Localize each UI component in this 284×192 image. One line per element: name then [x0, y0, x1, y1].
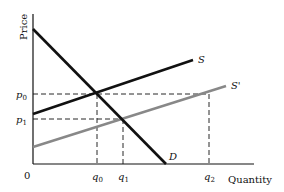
quantity-tick-q2: q2: [204, 171, 215, 184]
quantity-tick-q1: q1: [118, 171, 129, 184]
price-tick-p1: p1: [16, 114, 27, 127]
supply-label: S: [198, 54, 205, 65]
origin-label: 0: [24, 170, 30, 181]
demand-curve: [33, 29, 166, 164]
price-tick-p0: p0: [16, 89, 27, 102]
supply-shifted-curve: [33, 86, 226, 147]
supply-curve: [33, 60, 193, 114]
y-axis-label: Price: [18, 14, 29, 40]
x-axis-label: Quantity: [228, 174, 272, 185]
supply-shifted-label: S': [231, 80, 241, 91]
demand-label: D: [168, 151, 177, 162]
supply-demand-diagram: Price Quantity 0 S S' D p0 p1 q0 q1 q2: [0, 0, 284, 192]
quantity-tick-q0: q0: [92, 171, 103, 184]
